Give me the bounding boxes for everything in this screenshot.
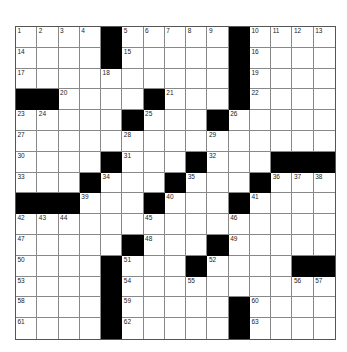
grid-cell[interactable]: 35 [186, 173, 207, 194]
grid-cell[interactable] [165, 48, 186, 69]
grid-cell[interactable] [207, 297, 228, 318]
grid-cell[interactable] [122, 214, 143, 235]
grid-cell[interactable]: 33 [16, 173, 37, 194]
grid-cell[interactable] [271, 89, 292, 110]
grid-cell[interactable]: 44 [59, 214, 80, 235]
grid-cell[interactable]: 3 [59, 27, 80, 48]
grid-cell[interactable] [144, 69, 165, 90]
grid-cell[interactable] [37, 235, 58, 256]
grid-cell[interactable] [101, 110, 122, 131]
grid-cell[interactable] [292, 214, 313, 235]
grid-cell[interactable]: 14 [16, 48, 37, 69]
grid-cell[interactable] [144, 297, 165, 318]
grid-cell[interactable] [271, 214, 292, 235]
grid-cell[interactable] [271, 193, 292, 214]
grid-cell[interactable] [37, 297, 58, 318]
grid-cell[interactable] [165, 214, 186, 235]
grid-cell[interactable] [250, 235, 271, 256]
grid-cell[interactable]: 28 [122, 131, 143, 152]
grid-cell[interactable] [314, 297, 335, 318]
grid-cell[interactable] [271, 48, 292, 69]
grid-cell[interactable]: 4 [80, 27, 101, 48]
grid-cell[interactable] [250, 277, 271, 298]
grid-cell[interactable]: 13 [314, 27, 335, 48]
grid-cell[interactable] [314, 214, 335, 235]
grid-cell[interactable]: 56 [292, 277, 313, 298]
grid-cell[interactable] [80, 318, 101, 339]
grid-cell[interactable] [229, 131, 250, 152]
grid-cell[interactable] [207, 89, 228, 110]
grid-cell[interactable] [207, 318, 228, 339]
grid-cell[interactable]: 34 [101, 173, 122, 194]
grid-cell[interactable] [229, 277, 250, 298]
grid-cell[interactable] [292, 48, 313, 69]
grid-cell[interactable] [37, 131, 58, 152]
grid-cell[interactable] [80, 89, 101, 110]
grid-cell[interactable] [165, 277, 186, 298]
grid-cell[interactable]: 7 [165, 27, 186, 48]
grid-cell[interactable] [59, 297, 80, 318]
grid-cell[interactable]: 20 [59, 89, 80, 110]
grid-cell[interactable]: 29 [207, 131, 228, 152]
grid-cell[interactable] [292, 89, 313, 110]
grid-cell[interactable]: 23 [16, 110, 37, 131]
grid-cell[interactable] [144, 152, 165, 173]
grid-cell[interactable] [314, 193, 335, 214]
grid-cell[interactable]: 10 [250, 27, 271, 48]
grid-cell[interactable]: 16 [250, 48, 271, 69]
grid-cell[interactable] [165, 131, 186, 152]
grid-cell[interactable] [37, 173, 58, 194]
grid-cell[interactable] [292, 193, 313, 214]
grid-cell[interactable] [144, 173, 165, 194]
grid-cell[interactable] [186, 235, 207, 256]
grid-cell[interactable] [59, 173, 80, 194]
grid-cell[interactable] [186, 131, 207, 152]
grid-cell[interactable] [292, 318, 313, 339]
grid-cell[interactable]: 45 [144, 214, 165, 235]
grid-cell[interactable] [314, 318, 335, 339]
grid-cell[interactable] [37, 48, 58, 69]
grid-cell[interactable] [101, 89, 122, 110]
grid-cell[interactable] [59, 318, 80, 339]
grid-cell[interactable] [37, 318, 58, 339]
grid-cell[interactable] [271, 131, 292, 152]
grid-cell[interactable] [186, 193, 207, 214]
grid-cell[interactable] [101, 131, 122, 152]
grid-cell[interactable] [165, 256, 186, 277]
grid-cell[interactable] [59, 69, 80, 90]
grid-cell[interactable] [122, 193, 143, 214]
grid-cell[interactable]: 6 [144, 27, 165, 48]
grid-cell[interactable] [271, 297, 292, 318]
grid-cell[interactable]: 24 [37, 110, 58, 131]
grid-cell[interactable]: 51 [122, 256, 143, 277]
grid-cell[interactable] [271, 318, 292, 339]
grid-cell[interactable] [186, 89, 207, 110]
grid-cell[interactable] [314, 89, 335, 110]
grid-cell[interactable]: 8 [186, 27, 207, 48]
grid-cell[interactable] [207, 69, 228, 90]
grid-cell[interactable] [207, 193, 228, 214]
grid-cell[interactable]: 57 [314, 277, 335, 298]
grid-cell[interactable] [250, 110, 271, 131]
grid-cell[interactable] [292, 131, 313, 152]
grid-cell[interactable] [80, 110, 101, 131]
grid-cell[interactable] [59, 110, 80, 131]
grid-cell[interactable] [80, 69, 101, 90]
grid-cell[interactable] [271, 110, 292, 131]
grid-cell[interactable] [144, 131, 165, 152]
grid-cell[interactable] [207, 277, 228, 298]
grid-cell[interactable] [186, 48, 207, 69]
grid-cell[interactable]: 15 [122, 48, 143, 69]
grid-cell[interactable]: 43 [37, 214, 58, 235]
grid-cell[interactable] [101, 235, 122, 256]
grid-cell[interactable] [207, 48, 228, 69]
grid-cell[interactable]: 63 [250, 318, 271, 339]
grid-cell[interactable] [250, 131, 271, 152]
grid-cell[interactable] [144, 48, 165, 69]
grid-cell[interactable]: 9 [207, 27, 228, 48]
grid-cell[interactable] [80, 48, 101, 69]
grid-cell[interactable] [80, 152, 101, 173]
grid-cell[interactable] [229, 256, 250, 277]
grid-cell[interactable]: 39 [80, 193, 101, 214]
grid-cell[interactable] [292, 69, 313, 90]
